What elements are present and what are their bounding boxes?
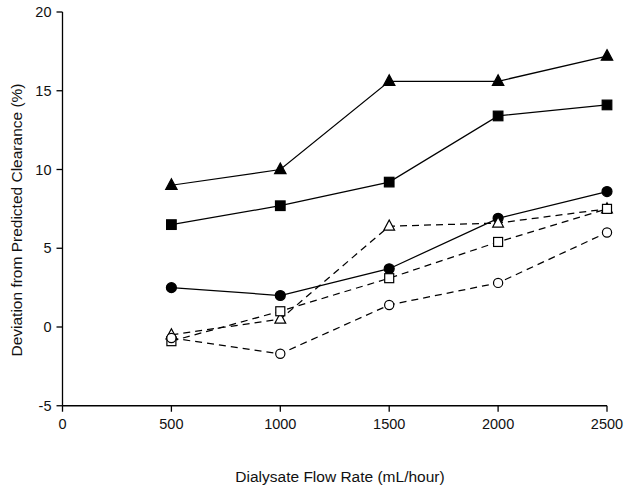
data-point-marker (276, 349, 285, 358)
y-tick-label: 15 (35, 83, 51, 99)
x-tick-label: 0 (58, 416, 66, 432)
x-tick-label: 2000 (482, 416, 514, 432)
x-tick-label: 2500 (591, 416, 623, 432)
data-point-marker (276, 307, 285, 316)
data-point-marker (602, 187, 612, 197)
data-point-marker (385, 300, 394, 309)
data-point-marker (384, 264, 394, 274)
y-axis-title: Deviation from Predicted Clearance (%) (8, 83, 25, 356)
data-point-marker (493, 111, 503, 121)
deviation-vs-flow-rate-chart: -505101520 05001000150020002500 Deviatio… (0, 0, 624, 493)
data-point-marker (167, 333, 176, 342)
data-point-marker (494, 278, 503, 287)
data-point-marker (603, 204, 612, 213)
x-tick-label: 1500 (373, 416, 405, 432)
y-tick-label: 20 (35, 4, 51, 20)
x-tick-label: 1000 (264, 416, 296, 432)
x-axis-title: Dialysate Flow Rate (mL/hour) (235, 468, 444, 485)
y-tick-label: 10 (35, 162, 51, 178)
x-tick-label: 500 (159, 416, 183, 432)
data-point-marker (602, 100, 612, 110)
y-tick-label: -5 (39, 398, 52, 414)
data-point-marker (166, 283, 176, 293)
y-tick-label: 0 (43, 319, 51, 335)
y-tick-label: 5 (43, 240, 51, 256)
chart-figure: -505101520 05001000150020002500 Deviatio… (0, 0, 624, 493)
data-point-marker (494, 237, 503, 246)
data-point-marker (384, 177, 394, 187)
data-point-marker (167, 220, 177, 230)
data-point-marker (275, 291, 285, 301)
data-point-marker (602, 228, 611, 237)
data-point-marker (385, 274, 394, 283)
data-point-marker (276, 201, 286, 211)
